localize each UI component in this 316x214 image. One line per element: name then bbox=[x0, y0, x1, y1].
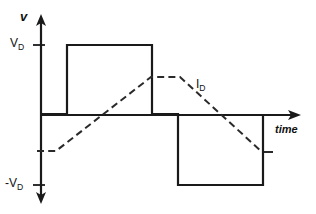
y-axis bbox=[36, 14, 46, 204]
positive-level-text: V bbox=[10, 36, 18, 50]
y-axis-label: v bbox=[20, 10, 27, 23]
waveform-plot bbox=[0, 0, 316, 214]
negative-level-subscript: D bbox=[17, 182, 23, 192]
negative-level-label: -VD bbox=[5, 177, 23, 189]
current-curve-subscript: D bbox=[199, 83, 205, 93]
negative-level-text: -V bbox=[5, 176, 17, 190]
positive-level-label: VD bbox=[10, 37, 24, 49]
positive-level-subscript: D bbox=[18, 42, 24, 52]
current-curve-label: ID bbox=[196, 78, 206, 90]
x-axis-label: time bbox=[275, 124, 298, 135]
waveform-figure: v time VD -VD ID bbox=[0, 0, 316, 214]
